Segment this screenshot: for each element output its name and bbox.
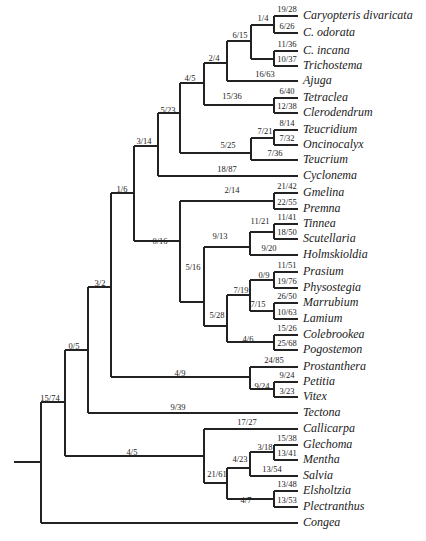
branch-support-label: 10/37 xyxy=(277,55,296,64)
branch-support-label: 13/54 xyxy=(262,465,281,474)
branch-support-label: 3/14 xyxy=(136,137,151,146)
taxon-label: Holmskioldia xyxy=(303,248,368,260)
taxon-label: Vitex xyxy=(303,390,327,402)
branch-support-label: 4/7 xyxy=(241,496,252,505)
taxon-label: Mentha xyxy=(303,453,340,465)
taxon-label: Salvia xyxy=(303,469,333,481)
branch-support-label: 9/13 xyxy=(212,232,227,241)
branch-support-label: 9/39 xyxy=(170,403,185,412)
taxon-label: Petitia xyxy=(303,375,335,387)
taxon-label: Tectona xyxy=(303,406,341,418)
taxon-label: Physostegia xyxy=(303,281,361,293)
branch-support-label: 25/68 xyxy=(277,339,296,348)
branch-support-label: 22/55 xyxy=(277,198,296,207)
branch-support-label: 11/36 xyxy=(277,40,296,49)
branch-support-label: 11/51 xyxy=(277,261,296,270)
taxon-label: Teucridium xyxy=(303,123,357,135)
branch-support-label: 15/74 xyxy=(40,394,59,403)
branch-support-label: 18/50 xyxy=(277,228,296,237)
taxon-label: Prostanthera xyxy=(303,360,366,372)
branch-support-label: 13/48 xyxy=(277,480,296,489)
branch-support-label: 11/41 xyxy=(277,213,296,222)
branch-support-label: 5/28 xyxy=(209,311,224,320)
taxon-label: Glechoma xyxy=(303,438,352,450)
branch-support-label: 7/32 xyxy=(279,134,294,143)
branch-support-label: 26/50 xyxy=(277,292,296,301)
branch-support-label: 1/4 xyxy=(258,14,269,23)
taxon-label: Cyclonema xyxy=(303,169,357,181)
branch-support-label: 4/9 xyxy=(175,369,186,378)
branch-support-label: 4/23 xyxy=(232,455,247,464)
branch-support-label: 0/16 xyxy=(152,237,167,246)
branch-support-label: 4/5 xyxy=(185,74,196,83)
taxon-label: C. incana xyxy=(303,44,350,56)
branch-support-label: 13/53 xyxy=(277,496,296,505)
branch-support-label: 7/19 xyxy=(233,286,248,295)
branch-support-label: 21/42 xyxy=(277,182,296,191)
phylogenetic-tree: Caryopteris divaricataC. odorataC. incan… xyxy=(0,0,426,541)
taxon-label: Oncinocalyx xyxy=(303,138,364,150)
taxon-label: Callicarpa xyxy=(303,422,355,434)
branch-support-label: 1/6 xyxy=(117,185,128,194)
taxon-label: Clerodendrum xyxy=(303,106,373,118)
branch-support-label: 6/40 xyxy=(279,87,294,96)
branch-support-label: 9/24 xyxy=(254,382,269,391)
branch-support-label: 21/61 xyxy=(207,470,226,479)
taxon-label: Marrubium xyxy=(303,296,358,308)
branch-support-label: 0/9 xyxy=(259,271,270,280)
taxon-label: Caryopteris divaricata xyxy=(303,9,413,21)
branch-support-label: 3/23 xyxy=(279,387,294,396)
branch-support-label: 5/23 xyxy=(160,106,175,115)
branch-support-label: 15/36 xyxy=(222,92,241,101)
taxon-label: Congea xyxy=(303,516,340,528)
branch-support-label: 8/14 xyxy=(279,119,294,128)
branch-support-label: 5/25 xyxy=(220,141,235,150)
taxon-label: Ajuga xyxy=(303,74,332,86)
branch-support-label: 9/24 xyxy=(279,371,294,380)
taxon-label: Plectranthus xyxy=(303,500,364,512)
taxon-label: Gmelina xyxy=(303,186,344,198)
taxon-label: Tetraclea xyxy=(303,91,348,103)
taxon-label: Trichostema xyxy=(303,59,362,71)
tree-branches xyxy=(0,0,426,541)
branch-support-label: 10/63 xyxy=(277,308,296,317)
branch-support-label: 6/26 xyxy=(279,22,294,31)
branch-support-label: 4/6 xyxy=(243,335,254,344)
taxon-label: Elsholtzia xyxy=(303,484,351,496)
branch-support-label: 7/36 xyxy=(267,149,282,158)
branch-support-label: 11/21 xyxy=(250,217,269,226)
taxon-label: Lamium xyxy=(303,312,342,324)
branch-support-label: 13/41 xyxy=(277,449,296,458)
taxon-label: Prasium xyxy=(303,265,344,277)
branch-support-label: 19/28 xyxy=(277,5,296,14)
branch-support-label: 5/16 xyxy=(185,263,200,272)
branch-support-label: 3/2 xyxy=(95,279,106,288)
branch-support-label: 7/15 xyxy=(250,300,265,309)
taxon-label: Pogostemon xyxy=(303,343,362,355)
taxon-label: Scutellaria xyxy=(303,232,356,244)
taxon-label: Teucrium xyxy=(303,153,348,165)
branch-support-label: 7/21 xyxy=(257,127,272,136)
branch-support-label: 0/5 xyxy=(69,342,80,351)
branch-support-label: 6/15 xyxy=(232,31,247,40)
branch-support-label: 15/38 xyxy=(277,434,296,443)
branch-support-label: 4/5 xyxy=(127,448,138,457)
branch-support-label: 9/20 xyxy=(261,244,276,253)
branch-support-label: 2/14 xyxy=(224,186,239,195)
branch-support-label: 18/87 xyxy=(217,165,236,174)
branch-support-label: 17/27 xyxy=(237,418,256,427)
branch-support-label: 2/4 xyxy=(209,54,220,63)
branch-support-label: 16/63 xyxy=(255,70,274,79)
taxon-label: Tinnea xyxy=(303,217,336,229)
taxon-label: Premna xyxy=(303,202,341,214)
taxon-label: Colebrookea xyxy=(303,328,365,340)
branch-support-label: 15/26 xyxy=(277,324,296,333)
taxon-label: C. odorata xyxy=(303,26,355,38)
branch-support-label: 19/76 xyxy=(277,277,296,286)
branch-support-label: 12/38 xyxy=(277,102,296,111)
branch-support-label: 24/85 xyxy=(264,356,283,365)
branch-support-label: 3/18 xyxy=(257,443,272,452)
